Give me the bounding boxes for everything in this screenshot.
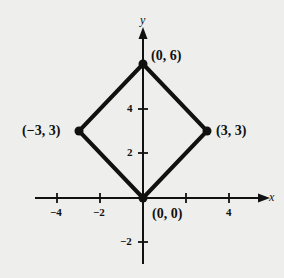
x-axis-label: x: [269, 191, 274, 203]
y-tick-label: −2: [120, 236, 132, 247]
x-axis: [35, 193, 270, 203]
vertex-label-top: (0, 6): [151, 49, 181, 63]
vertex-label-right: (3, 3): [216, 124, 246, 138]
x-tick-label: −4: [50, 207, 62, 218]
coordinate-plane: y x −4 −2 4 4 2 −2 (0, 6) (3, 3) (0, 0) …: [0, 0, 284, 278]
x-tick-label: 4: [226, 207, 232, 218]
vertex-label-origin: (0, 0): [152, 207, 182, 221]
vertex-label-left: (−3, 3): [22, 124, 60, 138]
y-tick-label: 2: [127, 147, 133, 158]
vertex-dot-origin: [139, 194, 148, 203]
vertex-dot-right: [203, 127, 212, 136]
vertex-dot-top: [139, 60, 148, 69]
x-tick-label: −2: [93, 207, 105, 218]
y-axis-arrow-icon: [139, 27, 148, 39]
y-tick-label: 4: [127, 103, 133, 114]
graph-svg: [0, 0, 284, 278]
vertex-dot-left: [75, 127, 84, 136]
y-axis-label: y: [140, 14, 145, 26]
